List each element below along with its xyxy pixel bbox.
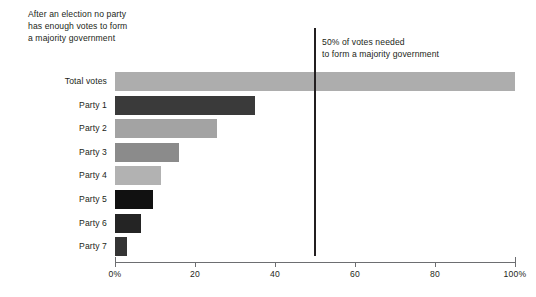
bar-party-5 <box>115 190 153 209</box>
majority-threshold-line <box>314 28 316 256</box>
bar-fill <box>115 214 141 233</box>
bar-party-3 <box>115 143 179 162</box>
category-label-total-votes: Total votes <box>65 72 107 91</box>
bar-party-6 <box>115 214 141 233</box>
category-label-party-2: Party 2 <box>79 119 107 138</box>
x-tick-label-100%: 100% <box>504 269 527 279</box>
bar-fill <box>115 96 255 115</box>
bar-fill <box>115 143 179 162</box>
x-tick-60 <box>355 262 356 267</box>
bar-party-2 <box>115 119 217 138</box>
category-label-party-6: Party 6 <box>79 214 107 233</box>
bar-chart: After an election no party has enough vo… <box>0 0 536 297</box>
x-tick-label-20: 20 <box>190 269 200 279</box>
annotation-majority-threshold: 50% of votes needed to form a majority g… <box>322 36 502 60</box>
bar-fill <box>115 119 217 138</box>
category-label-party-1: Party 1 <box>79 96 107 115</box>
annotation-left: After an election no party has enough vo… <box>28 8 198 45</box>
category-label-party-5: Party 5 <box>79 190 107 209</box>
category-label-party-4: Party 4 <box>79 166 107 185</box>
x-tick-0% <box>115 257 116 267</box>
x-tick-label-0%: 0% <box>109 269 122 279</box>
x-tick-label-80: 80 <box>430 269 440 279</box>
x-tick-80 <box>435 262 436 267</box>
bar-party-4 <box>115 166 161 185</box>
bar-fill <box>115 166 161 185</box>
x-tick-40 <box>275 262 276 267</box>
x-tick-label-60: 60 <box>350 269 360 279</box>
bar-fill <box>115 190 153 209</box>
x-tick-20 <box>195 262 196 267</box>
bar-party-1 <box>115 96 255 115</box>
category-label-party-3: Party 3 <box>79 143 107 162</box>
category-axis-labels: Total votesParty 1Party 2Party 3Party 4P… <box>0 72 107 252</box>
x-tick-100% <box>515 257 516 267</box>
category-label-party-7: Party 7 <box>79 237 107 256</box>
bar-fill <box>115 237 127 256</box>
x-axis-line <box>115 262 515 263</box>
x-tick-label-40: 40 <box>270 269 280 279</box>
bar-party-7 <box>115 237 127 256</box>
